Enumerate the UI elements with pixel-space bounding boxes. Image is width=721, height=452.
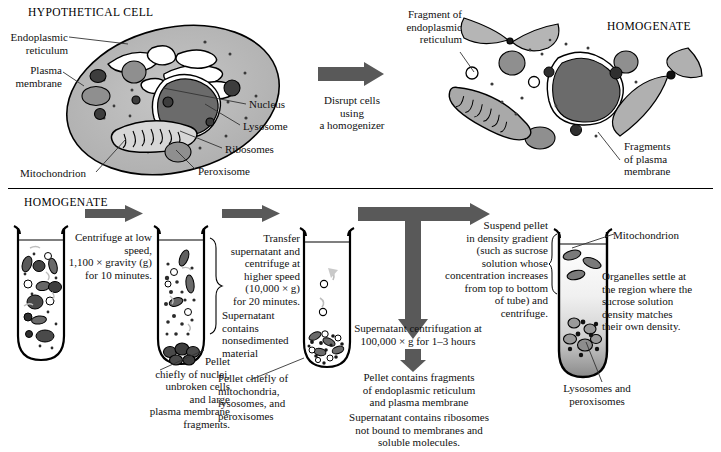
step2-supernatant-caption: Supernatant contains nonsedimented mater… <box>222 309 302 359</box>
step4-caption: Suspend pellet in density gradient (such… <box>438 219 548 319</box>
label-peroxisome: Peroxisome <box>198 165 250 178</box>
organelles-settle-caption: Organelles settle at the region where th… <box>602 270 714 333</box>
step3-pellet-result: Pellet contains fragments of endoplasmic… <box>333 371 505 409</box>
label-nucleus: Nucleus <box>249 98 285 111</box>
step3-caption: Supernatant centrifugation at 100,000 × … <box>336 322 500 347</box>
lysosome-leader <box>568 342 608 384</box>
step1-caption: Centrifuge at low speed, 1,100 × gravity… <box>60 231 152 281</box>
step2-pellet-caption: Pellet chiefly of mitochondria, lysosome… <box>218 372 328 422</box>
step2-caption: Transfer supernatant and centrifuge at h… <box>222 232 300 307</box>
label-mitochondrion: Mitochondrion <box>20 167 86 180</box>
label-plasma-membrane: Plasma membrane <box>0 64 62 89</box>
label-ribosomes: Ribosomes <box>225 143 274 156</box>
label-gradient-mitochondrion: Mitochondrion <box>613 229 679 242</box>
pellet-leader-1 <box>160 348 210 372</box>
test-tube-icon-step2 <box>298 226 356 372</box>
lysosomes-peroxisomes-caption: Lysosomes and peroxisomes <box>538 382 656 407</box>
block-arrow-right-icon-2 <box>222 205 280 222</box>
section-divider <box>8 188 713 189</box>
cell-leader-lines <box>0 0 360 195</box>
step3-supernatant-result: Supernatant contains ribosomes not bound… <box>326 411 512 449</box>
disrupt-step-caption: Disrupt cells using a homogenizer <box>312 94 392 132</box>
label-endoplasmic-reticulum: Endoplasmic reticulum <box>0 31 68 56</box>
label-fragments-plasma-membrane: Fragments of plasma membrane <box>624 140 704 178</box>
block-arrow-right-icon <box>318 62 384 86</box>
supernatant-brace-1 <box>208 236 222 336</box>
block-arrow-right-icon-1 <box>85 205 143 222</box>
step4-brace <box>549 232 559 298</box>
label-lysosome: Lysosome <box>243 120 288 133</box>
block-arrow-down-icon <box>398 350 428 372</box>
label-fragment-endoplasmic-reticulum: Fragment of endoplasmic reticulum <box>400 8 462 46</box>
